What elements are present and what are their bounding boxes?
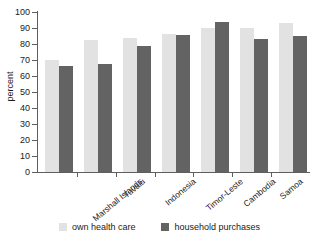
y-axis-labels: 1009080706050403020100 [0, 0, 30, 244]
bar-own-health-care [123, 38, 137, 172]
bar-group [123, 12, 151, 172]
bar-household-purchases [254, 39, 268, 172]
bar-own-health-care [84, 40, 98, 172]
x-tick-mark [77, 173, 78, 177]
bar-own-health-care [279, 23, 293, 172]
plot-area [38, 12, 310, 172]
y-tick-label: 30 [2, 120, 30, 129]
bar-own-health-care [240, 28, 254, 172]
bar-group [84, 12, 112, 172]
x-tick-label: Cambodia [242, 177, 277, 209]
y-tick-mark [32, 172, 37, 173]
x-tick-label: Indonesia [164, 177, 198, 208]
bar-household-purchases [176, 35, 190, 172]
chart-title-cropped [0, 0, 319, 6]
bar-group [240, 12, 268, 172]
bar-household-purchases [59, 66, 73, 172]
x-tick-mark [155, 173, 156, 177]
legend-swatch-icon [59, 223, 67, 231]
x-tick-label: Tuvalu [122, 177, 147, 200]
bar-household-purchases [215, 22, 229, 172]
y-axis-title: percent [6, 59, 15, 115]
bar-household-purchases [98, 64, 112, 172]
x-axis-line [37, 172, 310, 173]
y-tick-label: 0 [2, 168, 30, 177]
x-tick-mark [116, 173, 117, 177]
bar-household-purchases [137, 46, 151, 172]
y-tick-mark [32, 12, 37, 13]
bar-group [279, 12, 307, 172]
y-tick-mark [32, 140, 37, 141]
y-tick-label: 90 [2, 24, 30, 33]
legend-item[interactable]: household purchases [161, 222, 260, 232]
y-tick-label: 20 [2, 136, 30, 145]
y-tick-mark [32, 44, 37, 45]
x-tick-mark [193, 173, 194, 177]
bar-group [162, 12, 190, 172]
x-tick-mark [232, 173, 233, 177]
bar-own-health-care [45, 60, 59, 172]
bar-household-purchases [293, 36, 307, 172]
y-tick-mark [32, 76, 37, 77]
x-tick-label: Timor-Leste [205, 177, 245, 213]
legend-swatch-icon [161, 223, 169, 231]
bar-own-health-care [201, 28, 215, 172]
y-tick-mark [32, 108, 37, 109]
bar-chart: 1009080706050403020100 percent Marshall … [0, 0, 319, 244]
legend-label: own health care [72, 222, 136, 232]
bar-group [201, 12, 229, 172]
legend-label: household purchases [174, 222, 260, 232]
y-tick-label: 80 [2, 40, 30, 49]
chart-legend: own health carehousehold purchases [0, 222, 319, 232]
y-tick-mark [32, 92, 37, 93]
y-tick-mark [32, 156, 37, 157]
y-tick-mark [32, 60, 37, 61]
bar-group [45, 12, 73, 172]
y-tick-label: 100 [2, 8, 30, 17]
x-tick-label: Samoa [278, 177, 304, 201]
y-tick-label: 10 [2, 152, 30, 161]
legend-item[interactable]: own health care [59, 222, 136, 232]
bar-own-health-care [162, 34, 176, 172]
y-tick-mark [32, 28, 37, 29]
y-tick-mark [32, 124, 37, 125]
